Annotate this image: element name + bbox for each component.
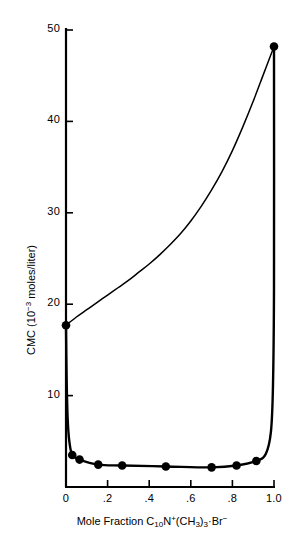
y-axis-title-prefix: CMC (10 — [25, 311, 37, 355]
x-axis-title-prefix: Mole Fraction C — [77, 515, 155, 527]
data-point-marker — [252, 457, 261, 466]
y-axis-tick-label: 30 — [40, 205, 60, 217]
chart-series-lower-curve — [66, 46, 274, 467]
data-point-marker — [68, 451, 77, 460]
x-axis-tick-label: 0 — [51, 492, 81, 504]
y-axis-tick-label: 20 — [40, 296, 60, 308]
x-axis-tick-label: .2 — [93, 492, 123, 504]
y-axis-title-suffix: moles/liter) — [25, 245, 37, 302]
data-point-marker — [118, 461, 127, 470]
x-axis-title-sub-10: 10 — [154, 520, 163, 529]
y-axis-title: CMC (10−3 moles/liter) — [24, 245, 37, 355]
data-point-marker — [162, 462, 171, 471]
chart-data-markers — [62, 42, 279, 472]
data-point-marker — [94, 460, 103, 469]
x-axis-title-ch-open: (CH — [176, 515, 196, 527]
data-point-marker — [270, 42, 279, 51]
x-axis-title-n: N — [163, 515, 171, 527]
x-axis-title-br: ·Br — [208, 515, 223, 527]
data-point-marker — [207, 463, 216, 472]
x-axis-title-minus: − — [223, 514, 228, 523]
y-axis-tick-label: 40 — [40, 113, 60, 125]
x-axis-title: Mole Fraction C10N+(CH3)3·Br− — [0, 514, 304, 529]
y-axis-title-exponent: −3 — [24, 302, 33, 311]
chart-plot-area — [0, 0, 304, 542]
y-axis-tick-label: 10 — [40, 388, 60, 400]
x-axis-tick-label: .4 — [134, 492, 164, 504]
x-axis-tick-label: .6 — [176, 492, 206, 504]
chart-figure: 1020304050 0.2.4.6.81.0 CMC (10−3 moles/… — [0, 0, 304, 542]
data-point-marker — [75, 455, 84, 464]
x-axis-tick-label: 1.0 — [259, 492, 289, 504]
chart-series-upper-curve — [66, 46, 274, 325]
y-axis-tick-label: 50 — [40, 22, 60, 34]
data-point-marker — [62, 321, 71, 330]
chart-series-lines — [66, 46, 274, 467]
x-axis-tick-label: .8 — [217, 492, 247, 504]
data-point-marker — [232, 461, 241, 470]
